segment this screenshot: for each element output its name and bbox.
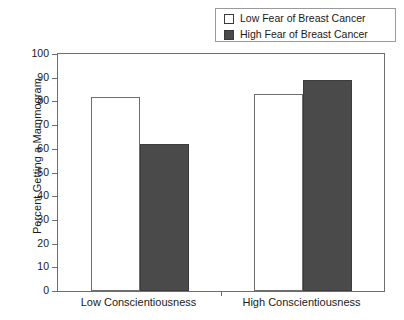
y-axis-tick-mark	[52, 267, 58, 268]
y-axis-tick-label: 80	[37, 94, 49, 107]
y-axis-tick-mark	[52, 291, 58, 292]
y-axis-tick-mark	[52, 173, 58, 174]
y-axis-tick-label: 50	[37, 166, 49, 179]
y-axis-tick-label: 90	[37, 71, 49, 84]
y-axis-tick-mark	[52, 54, 58, 55]
chart-legend: Low Fear of Breast Cancer High Fear of B…	[215, 8, 396, 42]
y-axis-tick-label: 40	[37, 189, 49, 202]
bar-high-conscientiousness-high-fear-of-breast-cancer	[303, 80, 352, 291]
dark-square-swatch-icon	[224, 30, 234, 40]
plot-area: 0102030405060708090100	[57, 53, 385, 292]
y-axis-tick-label: 100	[31, 47, 49, 60]
bar-low-conscientiousness-low-fear-of-breast-cancer	[91, 97, 140, 291]
y-axis-tick-mark	[52, 244, 58, 245]
y-axis-tick-label: 70	[37, 118, 49, 131]
x-axis-label-high-conscientiousness: High Conscientiousness	[192, 295, 404, 309]
y-axis-tick-label: 30	[37, 213, 49, 226]
bar-high-conscientiousness-low-fear-of-breast-cancer	[254, 94, 303, 291]
y-axis-tick-label: 60	[37, 142, 49, 155]
legend-item-high-fear: High Fear of Breast Cancer	[224, 27, 395, 42]
legend-item-label: Low Fear of Breast Cancer	[240, 13, 365, 24]
y-axis-tick-mark	[52, 149, 58, 150]
y-axis-tick-label: 10	[37, 260, 49, 273]
y-axis-tick-mark	[52, 196, 58, 197]
plot-inner: 0102030405060708090100	[58, 54, 384, 291]
legend-item-low-fear: Low Fear of Breast Cancer	[224, 11, 395, 26]
bar-chart-figure: Low Fear of Breast Cancer High Fear of B…	[0, 0, 404, 320]
y-axis-tick-mark	[52, 220, 58, 221]
y-axis-tick-mark	[52, 78, 58, 79]
light-square-swatch-icon	[224, 14, 234, 24]
bar-low-conscientiousness-high-fear-of-breast-cancer	[140, 144, 189, 291]
y-axis-tick-label: 20	[37, 237, 49, 250]
legend-item-label: High Fear of Breast Cancer	[240, 29, 368, 40]
y-axis-tick-mark	[52, 125, 58, 126]
y-axis-tick-mark	[52, 101, 58, 102]
